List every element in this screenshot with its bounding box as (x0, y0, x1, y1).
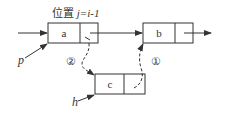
pointer-p-arrow (25, 44, 47, 58)
position-label: 位置 j=i-1 (52, 6, 99, 19)
pointer-h-arrow (78, 95, 94, 101)
linked-list-diagram: 位置 j=i-1 a b p c h ② ① (0, 0, 226, 115)
node-b-label: b (156, 27, 162, 39)
pointer-p-label: p (17, 53, 24, 67)
step-1-label: ① (151, 55, 161, 67)
pointer-h-label: h (72, 95, 78, 109)
node-c-label: c (108, 78, 113, 90)
step-2-label: ② (66, 55, 76, 67)
node-c: c (95, 74, 145, 94)
step-2-arrow (82, 43, 94, 75)
node-a-label: a (62, 27, 67, 39)
